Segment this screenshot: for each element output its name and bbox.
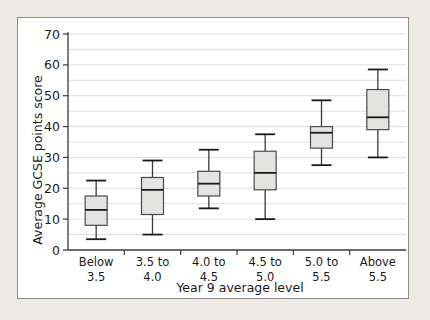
y-tick-label: 70 [44,27,60,42]
box-iqr-rect [254,151,276,190]
box-plot-item [254,134,276,219]
x-category-label: 5.0 to [305,255,339,269]
gridlines-group [68,34,406,235]
chart-figure-panel: 010203040506070 Below3.53.5 to4.04.0 to4… [17,17,409,299]
box-plot-item [198,150,220,209]
x-category-label: 3.5 [87,270,105,284]
y-tick-marks-group [63,34,68,250]
box-plot-item [311,100,333,165]
box-plot-item [367,69,389,157]
x-category-label: 4.0 to [192,255,226,269]
box-iqr-rect [142,177,164,214]
x-category-label: Above [360,255,396,269]
box-plot-item [85,181,107,240]
y-axis-title: Average GCSE points score [30,75,45,245]
y-tick-label: 0 [52,243,60,258]
x-axis-title: Year 9 average level [175,280,303,295]
box-plot-chart: 010203040506070 Below3.53.5 to4.04.0 to4… [18,18,410,300]
box-iqr-rect [367,90,389,130]
x-category-label: 5.5 [312,270,330,284]
y-tick-label: 10 [44,212,60,227]
x-category-label: 3.5 to [136,255,170,269]
y-tick-label: 50 [44,88,60,103]
boxes-group [85,69,389,239]
x-category-label: 5.5 [369,270,387,284]
x-category-label: 4.0 [143,270,161,284]
box-iqr-rect [311,127,333,149]
y-tick-label: 60 [44,57,60,72]
x-category-label: 4.5 to [248,255,282,269]
box-plot-item [142,161,164,235]
y-tick-label: 20 [44,181,60,196]
y-tick-label: 40 [44,119,60,134]
box-plot-svg: 010203040506070 Below3.53.5 to4.04.0 to4… [18,18,410,300]
y-tick-label: 30 [44,150,60,165]
y-tick-labels-group: 010203040506070 [44,27,60,258]
x-category-label: Below [79,255,114,269]
